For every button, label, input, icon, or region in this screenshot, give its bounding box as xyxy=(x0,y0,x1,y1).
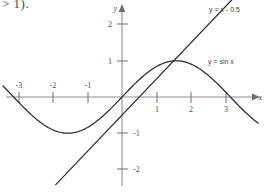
x-axis-label: x xyxy=(257,93,262,102)
axis-names: y x xyxy=(112,4,262,102)
x-tick-label--1: -1 xyxy=(85,81,92,90)
y-axis-arrow-icon xyxy=(119,4,126,12)
y-tick-label--1: -1 xyxy=(133,129,140,138)
x-tick-label--3: -3 xyxy=(16,81,23,90)
y-axis-label: y xyxy=(112,4,117,13)
y-tick-label--2: -2 xyxy=(133,165,140,174)
x-tick-label-2: 2 xyxy=(189,105,193,114)
linear-curve xyxy=(56,0,261,185)
linear-curve-label: y = x - 0.5 xyxy=(209,6,240,14)
x-tick-label-3: 3 xyxy=(224,105,228,114)
graph-page: > 1). -3 -2 -1 1 2 3 xyxy=(0,0,268,194)
function-graph: -3 -2 -1 1 2 3 2 1 -1 -2 y x y = x - 0.5… xyxy=(0,0,268,194)
y-tick-label-2: 2 xyxy=(108,20,112,29)
x-tick-label--2: -2 xyxy=(50,81,57,90)
sine-curve-label: y = sin x xyxy=(208,58,234,66)
y-tick-label-1: 1 xyxy=(108,57,112,66)
axes-group xyxy=(6,4,260,186)
x-tick-label-1: 1 xyxy=(155,105,159,114)
